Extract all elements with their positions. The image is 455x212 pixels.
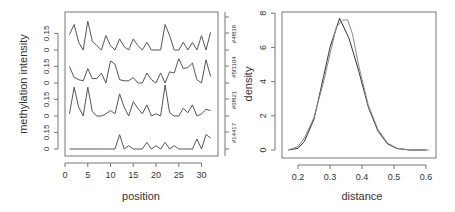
y-tick-label: 0 [42,146,51,151]
y-tick-label: 0.15 [42,25,51,41]
left-plot-box [65,12,218,156]
x-tick-label: 0.2 [292,172,305,182]
x-tick-label: 15 [128,170,138,180]
methylation-panel: 00.1500.1500.1500.15 #14417#6f821#5f1104… [17,12,237,202]
x-tick-label: 0.3 [324,172,337,182]
right-y-label: density [242,66,254,101]
left-y-label: methylation intensity [17,34,29,134]
y-tick-label: 0 [258,147,268,152]
density-panel: 02468 0.20.30.40.50.6 distance density [242,11,436,202]
y-tick-label: 2 [258,113,268,118]
series-label: #5f1104 [231,56,237,78]
y-tick-label: 4 [258,79,268,84]
y-tick-label: 0.15 [42,58,51,74]
x-tick-label: 30 [196,170,206,180]
y-tick-label: 0 [42,47,51,52]
x-tick-label: 20 [151,170,161,180]
series-label: #4f818 [231,24,237,43]
y-tick-label: 6 [258,45,268,50]
x-tick-label: 5 [85,170,90,180]
left-x-label: position [122,190,160,202]
right-x-axis: 0.20.30.40.50.6 [292,165,433,182]
left-x-axis: 051015202530 [62,163,206,180]
right-y-axis: 02468 [258,11,275,153]
series-label: #14417 [231,122,237,143]
y-tick-label: 0 [42,113,51,118]
x-tick-label: 0.4 [356,172,369,182]
left-right-axis: #14417#6f821#5f1104#4f818 [225,12,237,156]
methylation-series [70,21,211,149]
y-tick-label: 0.15 [42,124,51,140]
y-tick-label: 0.15 [42,91,51,107]
right-x-label: distance [342,190,383,202]
density-series [288,18,429,150]
chart-canvas: 00.1500.1500.1500.15 #14417#6f821#5f1104… [0,0,455,212]
series-line-4 [70,21,211,50]
series-line-3 [70,59,211,83]
x-tick-label: 0 [62,170,67,180]
left-y-axis: 00.1500.1500.1500.15 [42,25,58,151]
figure: 00.1500.1500.1500.15 #14417#6f821#5f1104… [0,0,455,212]
y-tick-label: 8 [258,11,268,16]
y-tick-label: 0 [42,80,51,85]
series-label: #6f821 [231,90,237,109]
series-line-2 [70,85,211,116]
density-line-1 [288,18,426,150]
series-line-1 [70,135,211,149]
x-tick-label: 0.5 [388,172,401,182]
x-tick-label: 25 [174,170,184,180]
x-tick-label: 0.6 [420,172,433,182]
x-tick-label: 10 [105,170,115,180]
